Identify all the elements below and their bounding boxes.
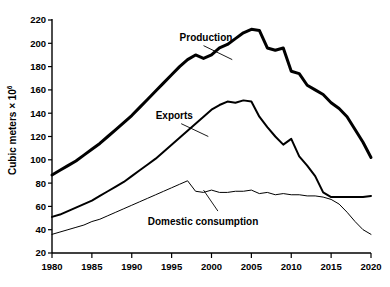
- x-tick-label: 2000: [201, 261, 222, 272]
- chart-canvas: 20406080100120140160180200220 1980198519…: [0, 0, 390, 287]
- x-tick-label: 1985: [81, 261, 103, 272]
- y-tick-label: 180: [30, 61, 46, 72]
- y-tick-label: 100: [30, 154, 46, 165]
- y-tick-label: 120: [30, 131, 46, 142]
- x-tick-label: 2010: [281, 261, 302, 272]
- y-tick-label: 220: [30, 14, 46, 25]
- series-label-exports: Exports: [156, 110, 194, 121]
- x-tick-label: 2015: [321, 261, 343, 272]
- y-tick-label: 60: [35, 201, 46, 212]
- y-tick-label: 140: [30, 108, 46, 119]
- y-axis-title-exponent: 6: [6, 85, 13, 89]
- y-axis-title-text: Cubic meters × 10: [7, 89, 18, 175]
- series-label-domestic-consumption: Domestic consumption: [148, 216, 259, 227]
- y-tick-label: 160: [30, 84, 46, 95]
- chart-background: [0, 0, 390, 287]
- svg-text:Cubic meters × 106: Cubic meters × 106: [6, 85, 18, 175]
- y-tick-label: 20: [35, 247, 46, 258]
- x-tick-label: 1995: [161, 261, 183, 272]
- x-tick-label: 1980: [41, 261, 62, 272]
- x-axis-tick-labels: 198019851990199520002005201020152020: [41, 261, 381, 272]
- x-tick-label: 2020: [360, 261, 381, 272]
- y-axis-title: Cubic meters × 106: [6, 85, 18, 175]
- x-tick-label: 1990: [121, 261, 142, 272]
- y-tick-label: 80: [35, 178, 46, 189]
- chart-figure: 20406080100120140160180200220 1980198519…: [0, 0, 390, 287]
- series-label-production: Production: [180, 32, 233, 43]
- x-tick-label: 2005: [241, 261, 263, 272]
- y-tick-label: 40: [35, 224, 46, 235]
- y-tick-label: 200: [30, 38, 46, 49]
